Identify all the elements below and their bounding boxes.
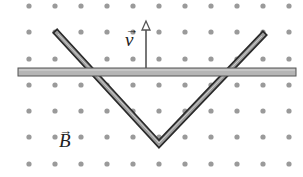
field-dot bbox=[104, 3, 109, 8]
field-dot bbox=[104, 56, 109, 61]
field-dot bbox=[104, 161, 109, 166]
field-dot bbox=[52, 56, 57, 61]
vector-arrow-mark: → bbox=[125, 23, 133, 36]
v-shaped-rails bbox=[57, 33, 263, 144]
field-dot bbox=[260, 134, 265, 139]
field-dot bbox=[234, 29, 239, 34]
field-dot bbox=[286, 56, 291, 61]
field-dot bbox=[156, 56, 161, 61]
field-dot bbox=[182, 3, 187, 8]
field-dot bbox=[26, 134, 31, 139]
field-dot bbox=[130, 56, 135, 61]
field-dot bbox=[78, 161, 83, 166]
field-dot bbox=[78, 29, 83, 34]
field-dot bbox=[26, 3, 31, 8]
field-dot bbox=[130, 3, 135, 8]
field-dot bbox=[234, 108, 239, 113]
field-dot bbox=[286, 134, 291, 139]
velocity-label: → v bbox=[125, 30, 133, 49]
field-dot bbox=[286, 161, 291, 166]
sliding-bar bbox=[18, 68, 296, 76]
field-dot bbox=[260, 3, 265, 8]
field-dot bbox=[182, 56, 187, 61]
field-dot bbox=[182, 29, 187, 34]
field-dot bbox=[156, 108, 161, 113]
diagram-canvas bbox=[0, 0, 303, 177]
velocity-arrow-icon bbox=[142, 21, 150, 68]
field-dot bbox=[286, 108, 291, 113]
field-dot bbox=[208, 3, 213, 8]
field-dot bbox=[104, 134, 109, 139]
field-dot bbox=[130, 82, 135, 87]
field-dot bbox=[234, 82, 239, 87]
field-dot bbox=[182, 134, 187, 139]
field-dot bbox=[26, 161, 31, 166]
field-dot bbox=[260, 108, 265, 113]
field-dot bbox=[78, 3, 83, 8]
field-dot bbox=[52, 3, 57, 8]
field-dot bbox=[260, 56, 265, 61]
field-dot bbox=[130, 134, 135, 139]
field-dot bbox=[26, 56, 31, 61]
field-dot bbox=[52, 161, 57, 166]
field-dot bbox=[286, 29, 291, 34]
field-dot bbox=[234, 161, 239, 166]
field-dot bbox=[208, 56, 213, 61]
field-dot bbox=[52, 82, 57, 87]
field-dot bbox=[286, 82, 291, 87]
field-dot bbox=[156, 82, 161, 87]
field-dot bbox=[78, 82, 83, 87]
field-dot bbox=[208, 134, 213, 139]
field-dot bbox=[52, 134, 57, 139]
field-dot bbox=[26, 29, 31, 34]
field-dot bbox=[130, 161, 135, 166]
field-dot bbox=[156, 161, 161, 166]
field-dot bbox=[234, 3, 239, 8]
field-dot bbox=[208, 108, 213, 113]
vector-arrow-mark: → bbox=[59, 124, 71, 137]
field-dot bbox=[26, 108, 31, 113]
field-dot bbox=[208, 29, 213, 34]
field-dot bbox=[78, 108, 83, 113]
field-dot bbox=[182, 82, 187, 87]
field-label: → B bbox=[59, 131, 71, 150]
field-dot bbox=[286, 3, 291, 8]
field-dot bbox=[234, 134, 239, 139]
field-dot bbox=[104, 29, 109, 34]
field-dot bbox=[26, 82, 31, 87]
field-dot bbox=[104, 108, 109, 113]
field-dot bbox=[208, 161, 213, 166]
field-dot bbox=[52, 108, 57, 113]
field-dot bbox=[78, 134, 83, 139]
field-dot bbox=[260, 82, 265, 87]
field-dot bbox=[156, 3, 161, 8]
field-dot bbox=[182, 161, 187, 166]
field-dot bbox=[260, 161, 265, 166]
physics-diagram: → v → B bbox=[0, 0, 303, 177]
field-dot bbox=[156, 29, 161, 34]
